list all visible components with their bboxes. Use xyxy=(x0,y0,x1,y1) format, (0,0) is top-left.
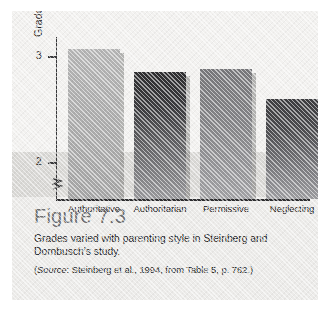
x-axis-line xyxy=(56,199,310,201)
bar-body xyxy=(68,49,120,199)
y-axis-title: Grade point average xyxy=(32,11,44,37)
bar-shadow xyxy=(186,76,190,200)
chart-area: 3 2 Grade point average Authoritative Au… xyxy=(12,11,318,197)
y-tick-label-2: 2 xyxy=(12,155,42,167)
bar-shadow xyxy=(252,73,256,200)
figure-title: Figure 7.3 xyxy=(34,205,306,228)
figure-source: (Source: Steinberg et al., 1994, from Ta… xyxy=(34,265,306,276)
y-tick-2 xyxy=(48,162,56,164)
bar-authoritarian[interactable] xyxy=(134,72,186,199)
figure-description: Grades varied with parenting style in St… xyxy=(34,233,286,258)
axis-break-icon xyxy=(52,177,63,190)
bar-authoritative[interactable] xyxy=(68,49,120,199)
y-tick-label-3: 3 xyxy=(12,49,42,61)
figure-caption: Figure 7.3 Grades varied with parenting … xyxy=(34,205,306,276)
bar-permissive[interactable] xyxy=(200,69,252,199)
plot-area: 3 2 Grade point average Authoritative Au… xyxy=(46,27,306,200)
y-axis-line xyxy=(56,37,57,200)
bar-neglecting[interactable] xyxy=(266,99,318,199)
figure-panel: 3 2 Grade point average Authoritative Au… xyxy=(12,11,318,300)
y-tick-3 xyxy=(48,56,56,58)
bar-shadow xyxy=(120,53,124,200)
source-rest: : Steinberg et al., 1994, from Table 5, … xyxy=(67,265,253,275)
bar-body xyxy=(134,72,186,199)
bar-body xyxy=(266,99,318,199)
bar-body xyxy=(200,69,252,199)
source-word: Source xyxy=(37,265,66,275)
